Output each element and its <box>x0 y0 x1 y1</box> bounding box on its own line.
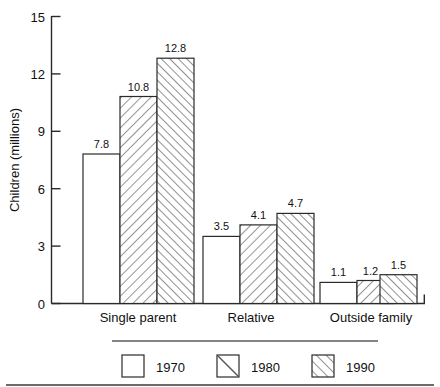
value-label-relative-1980: 4.1 <box>251 209 266 221</box>
value-label-single-parent-1970: 7.8 <box>94 138 109 150</box>
bar-outside-family-1990 <box>380 275 417 304</box>
y-tick-label-15: 15 <box>31 10 45 25</box>
legend: 1970 1980 1990 <box>112 341 378 377</box>
category-label-relative: Relative <box>228 310 275 325</box>
legend-swatch-1990 <box>312 355 334 377</box>
y-tick-label-0: 0 <box>38 297 45 312</box>
legend-label-1970: 1970 <box>156 360 185 375</box>
bar-group-relative: 3.5 4.1 4.7 Relative <box>203 197 314 325</box>
y-tick-label-6: 6 <box>38 182 45 197</box>
bar-chart: 15 12 9 6 3 0 Children (millions) 7.8 10… <box>0 0 440 387</box>
bar-single-parent-1970 <box>83 154 120 304</box>
legend-label-1980: 1980 <box>251 360 280 375</box>
bar-group-outside-family: 1.1 1.2 1.5 Outside family <box>320 259 417 325</box>
y-axis-title: Children (millions) <box>7 108 22 212</box>
value-label-single-parent-1980: 10.8 <box>128 81 149 93</box>
value-label-relative-1970: 3.5 <box>214 220 229 232</box>
y-axis: 15 12 9 6 3 0 Children (millions) <box>7 10 61 312</box>
bar-group-single-parent: 7.8 10.8 12.8 Single parent <box>83 42 194 325</box>
legend-swatch-1970 <box>122 355 144 377</box>
y-tick-label-9: 9 <box>38 124 45 139</box>
value-label-relative-1990: 4.7 <box>288 197 303 209</box>
bar-relative-1970 <box>203 236 240 303</box>
bar-single-parent-1990 <box>157 58 194 303</box>
value-label-outside-family-1980: 1.2 <box>363 265 378 277</box>
y-tick-label-12: 12 <box>31 67 45 82</box>
value-label-single-parent-1990: 12.8 <box>165 42 186 54</box>
bar-outside-family-1970 <box>320 282 357 303</box>
category-label-outside-family: Outside family <box>330 310 413 325</box>
value-label-outside-family-1990: 1.5 <box>391 259 406 271</box>
bar-single-parent-1980 <box>120 97 157 304</box>
y-tick-label-3: 3 <box>38 239 45 254</box>
category-label-single-parent: Single parent <box>100 310 177 325</box>
bar-relative-1990 <box>277 213 314 303</box>
value-label-outside-family-1970: 1.1 <box>331 266 346 278</box>
legend-label-1990: 1990 <box>346 360 375 375</box>
bar-relative-1980 <box>240 225 277 304</box>
